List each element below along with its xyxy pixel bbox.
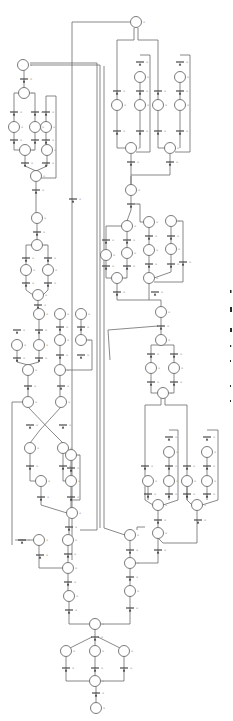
place-node	[76, 309, 87, 320]
place-node	[153, 528, 164, 539]
place-node	[126, 143, 137, 154]
transition-label: ≡	[30, 78, 32, 81]
transition-label: ≡	[72, 667, 74, 670]
transition-label: ≡	[213, 493, 215, 496]
petri-net-diagram: ≡≡≡≡≡≡≡≡≡≡≡≡≡≡≡≡≡≡≡≡≡≡≡≡≡≡≡≡≡≡≡≡≡≡≡≡≡≡≡≡…	[0, 0, 233, 721]
transition-label: ≡	[136, 549, 138, 552]
arrowhead-icon	[67, 583, 69, 586]
place-label: ≡	[156, 249, 158, 252]
place-label: ≡	[44, 217, 46, 220]
arrowhead-icon	[139, 92, 141, 95]
arrowhead-icon	[129, 609, 131, 612]
place-node	[66, 450, 77, 461]
transitions	[10, 62, 211, 697]
place-label: ≡	[31, 92, 33, 95]
transition-label: ≡	[101, 636, 103, 639]
transition-label: ≡	[66, 326, 68, 329]
place-label: ≡	[24, 344, 26, 347]
place-label: ≡	[158, 367, 160, 370]
place-label: ≡	[168, 311, 170, 314]
place-node	[153, 100, 164, 111]
place-label: ≡	[165, 504, 167, 507]
transition-label: ≡	[193, 493, 195, 496]
arrowhead-icon	[170, 237, 172, 240]
transition-label: ≡	[45, 357, 47, 360]
arrowhead-icon	[160, 327, 162, 330]
place-label: ≡	[147, 104, 149, 107]
place-label: ≡	[46, 344, 48, 347]
place-label: ≡	[78, 454, 80, 457]
place-label: ≡	[70, 447, 72, 450]
arrowhead-icon	[80, 328, 82, 331]
transition-label: ≡	[75, 526, 77, 529]
transition-label: ≡	[66, 354, 68, 357]
transition-label: ≡	[123, 291, 125, 294]
arrowhead-icon	[94, 669, 96, 672]
transition-label: ≡	[180, 353, 182, 356]
transition-label: ≡	[155, 263, 157, 266]
arrowhead-icon	[169, 163, 171, 166]
place-node	[192, 500, 203, 511]
transition-label: ≡	[77, 496, 79, 499]
transition-label: ≡	[186, 90, 188, 93]
place-label: ≡	[177, 147, 179, 150]
transition-label: ≡	[193, 465, 195, 468]
transition-label: ≡	[177, 263, 179, 266]
place-node	[135, 100, 146, 111]
place-node	[63, 535, 74, 546]
place-label: ≡	[68, 401, 70, 404]
place-label: ≡	[55, 269, 57, 272]
place-label: ≡	[76, 595, 78, 598]
arrowhead-icon	[129, 578, 131, 581]
arrowhead-icon	[179, 132, 181, 135]
transition-label: ≡	[164, 130, 166, 133]
place-label: ≡	[33, 269, 35, 272]
place-node	[67, 508, 78, 519]
arrowhead-icon	[157, 132, 159, 135]
place-label: ≡	[53, 126, 55, 129]
place-label: ≡	[103, 707, 105, 710]
transition-label: ≡	[74, 581, 76, 584]
arrowhead-icon	[206, 495, 208, 498]
arrowhead-icon	[23, 80, 25, 83]
place-label: ≡	[102, 680, 104, 683]
place-label: ≡	[178, 220, 180, 223]
transition-label: ≡	[28, 539, 30, 542]
place-node	[19, 88, 30, 99]
transition-label: ≡	[123, 130, 125, 133]
transition-label: ≡	[137, 203, 139, 206]
transition-label: ≡	[36, 424, 38, 427]
place-node	[64, 591, 75, 602]
arrowhead-icon	[157, 92, 159, 95]
arrowhead-icon	[148, 265, 150, 268]
arrowhead-icon	[157, 521, 159, 524]
arrowhead-icon	[179, 92, 181, 95]
place-label: ≡	[43, 175, 45, 178]
place-label: ≡	[165, 532, 167, 535]
place-label: ≡	[46, 313, 48, 316]
arrowhead-icon	[80, 356, 82, 359]
transition-label: ≡	[161, 291, 163, 294]
place-node	[55, 335, 66, 346]
transition-label: ≡	[31, 162, 33, 165]
arrowhead-icon	[139, 132, 141, 135]
transition-label: ≡	[154, 493, 156, 496]
place-node	[12, 340, 23, 351]
place-label: ≡	[35, 369, 37, 372]
transition-label: ≡	[43, 231, 45, 234]
transition-label: ≡	[136, 607, 138, 610]
place-label: ≡	[155, 480, 157, 483]
place-label: ≡	[204, 504, 206, 507]
arrowhead-icon	[144, 467, 146, 470]
place-label: ≡	[170, 392, 172, 395]
transition-label: ≡	[146, 130, 148, 133]
arrowhead-icon	[168, 467, 170, 470]
place-node	[202, 447, 213, 458]
place-node	[90, 646, 101, 657]
arrowhead-icon	[123, 669, 125, 672]
transition-label: ≡	[54, 257, 56, 260]
place-label: ≡	[35, 401, 37, 404]
transition-label: ≡	[177, 235, 179, 238]
transition-label: ≡	[146, 61, 148, 64]
transition-label: ≡	[20, 139, 22, 142]
